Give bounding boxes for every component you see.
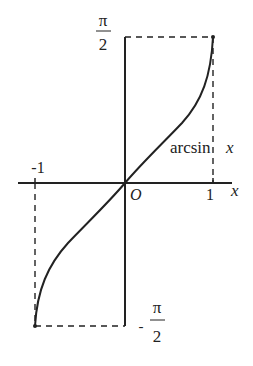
y-bottom-num: π (153, 298, 162, 317)
endpoint-top (211, 35, 215, 39)
y-bottom-sign: - (139, 318, 144, 334)
function-label: arcsin (170, 138, 211, 157)
tick-label-pos-one: 1 (206, 186, 214, 203)
tick-label-neg-one: -1 (31, 159, 44, 176)
arcsin-diagram: π 2 - π 2 arcsin x -1 O 1 x (0, 0, 253, 366)
y-top-den: 2 (99, 35, 108, 54)
y-top-num: π (99, 11, 108, 30)
x-axis-label: x (230, 181, 239, 200)
origin-label: O (130, 186, 142, 203)
endpoint-bottom (33, 324, 37, 328)
y-bottom-den: 2 (153, 327, 162, 346)
function-var: x (225, 138, 234, 157)
